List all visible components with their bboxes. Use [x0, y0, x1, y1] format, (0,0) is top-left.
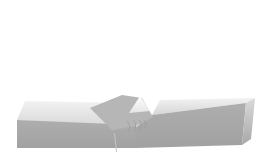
workpiece-right-plate — [136, 98, 255, 148]
fsw-schematic-figure — [0, 0, 268, 157]
figure-canvas — [0, 0, 268, 157]
